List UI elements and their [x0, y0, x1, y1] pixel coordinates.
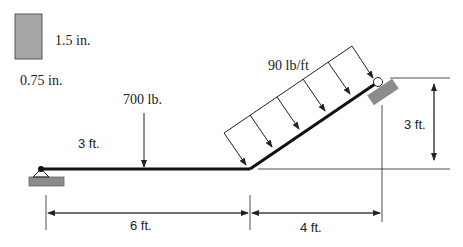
four-ft-dimension-label: 4 ft.	[300, 220, 322, 235]
cross-section-height-label: 1.5 in.	[55, 33, 90, 48]
right-pin-icon	[374, 78, 383, 87]
cross-section-width-label: 0.75 in.	[20, 73, 62, 88]
vertical-dimension-label: 3 ft.	[404, 117, 426, 132]
distributed-load-label: 90 lb/ft	[268, 58, 309, 73]
cross-section-rect	[15, 14, 42, 59]
left-support-base	[29, 177, 64, 186]
right-support	[367, 78, 399, 106]
point-load-position-label: 3 ft.	[78, 136, 100, 151]
six-ft-dimension-label: 6 ft.	[130, 218, 152, 233]
point-load-label: 700 lb.	[123, 92, 162, 107]
beam-diagram: 1.5 in. 0.75 in. 700 lb. 3 ft. 90 lb/ft …	[0, 0, 463, 247]
